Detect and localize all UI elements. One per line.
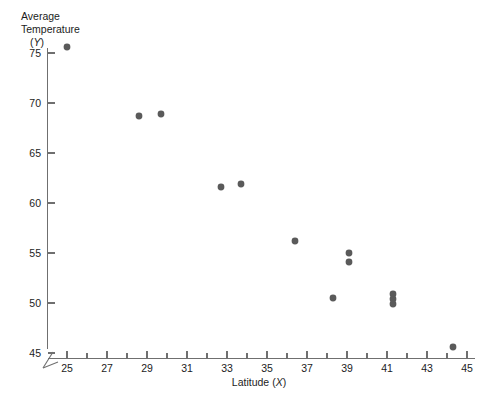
x-axis-tick-label: 41 — [381, 362, 393, 374]
x-axis-tick-label: 33 — [221, 362, 233, 374]
y-axis-tick-label: 60 — [29, 197, 41, 209]
data-point — [346, 259, 353, 266]
x-axis-tick-label: 45 — [461, 362, 473, 374]
y-axis-label-line-1: Average — [21, 10, 60, 22]
y-axis-label: Average Temperature (Y) — [21, 10, 80, 48]
data-point — [390, 301, 397, 308]
y-axis-tick-label: 65 — [29, 147, 41, 159]
data-point — [346, 250, 353, 257]
data-point — [218, 184, 225, 191]
y-axis-tick-label: 45 — [29, 347, 41, 359]
y-axis-tick-label: 75 — [29, 47, 41, 59]
y-axis-label-line-2: Temperature — [21, 23, 80, 35]
x-axis-label: Latitude (X) — [232, 376, 286, 388]
x-axis-tick-label: 25 — [61, 362, 73, 374]
axes — [43, 48, 475, 368]
data-point — [450, 344, 457, 351]
scatter-plot-figure: Average Temperature (Y) 45505560657075 2… — [0, 0, 487, 407]
y-axis-tick-label: 55 — [29, 247, 41, 259]
x-axis-tick-label: 35 — [261, 362, 273, 374]
y-axis-tick-label: 50 — [29, 297, 41, 309]
y-axis-ticks: 45505560657075 — [29, 47, 55, 359]
data-point — [136, 113, 143, 120]
x-axis-tick-label: 29 — [141, 362, 153, 374]
plot-canvas: Average Temperature (Y) 45505560657075 2… — [0, 0, 487, 407]
data-point — [330, 295, 337, 302]
x-axis-label-prefix: Latitude ( — [232, 376, 276, 388]
x-axis-ticks: 2527293133353739414345 — [61, 351, 473, 374]
data-point — [238, 181, 245, 188]
x-axis-tick-label: 31 — [181, 362, 193, 374]
data-point — [158, 111, 165, 118]
data-points-layer — [64, 44, 457, 351]
data-point — [292, 238, 299, 245]
x-axis-label-suffix: ) — [283, 376, 287, 388]
y-axis-tick-label: 70 — [29, 97, 41, 109]
x-axis-tick-label: 39 — [341, 362, 353, 374]
x-axis-tick-label: 43 — [421, 362, 433, 374]
data-point — [64, 44, 71, 51]
x-axis-tick-label: 37 — [301, 362, 313, 374]
x-axis-tick-label: 27 — [101, 362, 113, 374]
